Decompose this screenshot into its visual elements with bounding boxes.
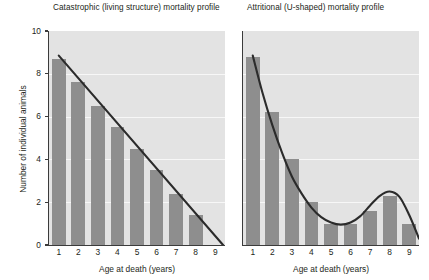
y-axis-spine — [242, 31, 243, 246]
x-tick-label: 7 — [363, 247, 377, 257]
x-tick-label: 6 — [150, 247, 164, 257]
y-tick-label: 2 — [25, 197, 41, 207]
y-tick-mark — [45, 202, 48, 203]
y-tick-label: 4 — [25, 154, 41, 164]
plot-area-attritional — [243, 31, 419, 245]
x-tick-label: 3 — [91, 247, 105, 257]
x-tick-label: 2 — [265, 247, 279, 257]
chart-title-attritional: Attritional (U-shaped) mortality profile — [247, 3, 429, 13]
x-axis-spine — [242, 245, 419, 246]
x-tick-label: 2 — [71, 247, 85, 257]
x-tick-label: 4 — [304, 247, 318, 257]
x-tick-label: 4 — [110, 247, 124, 257]
y-tick-mark — [45, 116, 48, 117]
x-tick-label: 7 — [169, 247, 183, 257]
y-tick-mark — [45, 73, 48, 74]
y-tick-label: 10 — [25, 26, 41, 36]
x-tick-label: 9 — [402, 247, 416, 257]
y-tick-mark — [45, 30, 48, 31]
x-axis-spine — [48, 245, 225, 246]
x-tick-label: 9 — [208, 247, 222, 257]
y-axis-spine — [48, 31, 49, 246]
x-tick-label: 5 — [130, 247, 144, 257]
x-tick-label: 3 — [285, 247, 299, 257]
panel-attritional: Attritional (U-shaped) mortality profile… — [230, 0, 429, 280]
plot-area-catastrophic — [49, 31, 225, 245]
y-tick-mark — [45, 244, 48, 245]
x-tick-label: 8 — [383, 247, 397, 257]
x-axis-label: Age at death (years) — [49, 264, 225, 274]
chart-title-catastrophic: Catastrophic (living structure) mortalit… — [53, 3, 223, 13]
figure-root: Catastrophic (living structure) mortalit… — [0, 0, 429, 280]
y-axis-label: Number of individual animals — [18, 64, 28, 214]
x-tick-label: 5 — [324, 247, 338, 257]
y-tick-label: 6 — [25, 111, 41, 121]
x-tick-label: 6 — [344, 247, 358, 257]
trendline-catastrophic — [49, 31, 225, 245]
panel-catastrophic: Catastrophic (living structure) mortalit… — [0, 0, 230, 280]
x-tick-label: 1 — [52, 247, 66, 257]
y-tick-label: 0 — [25, 240, 41, 250]
x-axis-label: Age at death (years) — [243, 264, 419, 274]
trendline-attritional — [243, 31, 419, 245]
x-tick-label: 8 — [189, 247, 203, 257]
y-tick-mark — [45, 159, 48, 160]
y-tick-label: 8 — [25, 68, 41, 78]
x-tick-label: 1 — [246, 247, 260, 257]
